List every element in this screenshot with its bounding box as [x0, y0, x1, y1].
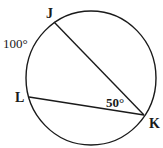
arc-measure-label: 100° [3, 36, 28, 51]
chord-jk [54, 22, 144, 115]
angle-measure-label: 50° [106, 95, 124, 110]
chord-lk [29, 97, 144, 115]
circle-diagram: J L K 100° 50° [0, 0, 163, 148]
point-label-l: L [15, 90, 24, 105]
point-label-j: J [46, 6, 53, 21]
point-label-k: K [149, 116, 160, 131]
circle [26, 11, 156, 145]
